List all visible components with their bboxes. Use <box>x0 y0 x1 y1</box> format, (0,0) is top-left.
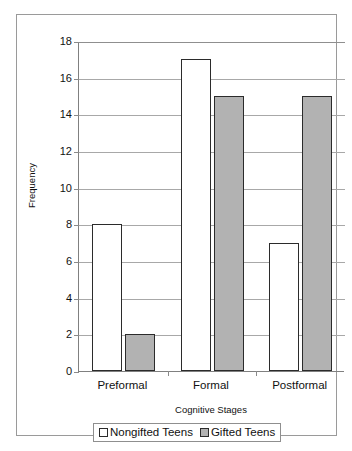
x-axis-category-label: Preformal <box>78 378 167 392</box>
y-axis-tick <box>74 225 79 226</box>
y-axis-title: Frequency <box>26 151 37 221</box>
x-axis-category-labels: PreformalFormalPostformal <box>78 378 344 394</box>
y-axis-tick-label: 14 <box>46 109 72 120</box>
x-axis-category-label: Postformal <box>255 378 344 392</box>
chart-frame: 024681012141618 Frequency PreformalForma… <box>16 14 337 436</box>
y-axis-tick <box>74 299 79 300</box>
bar <box>269 243 299 371</box>
legend-swatch-icon <box>200 428 209 437</box>
y-axis-tick-label: 4 <box>46 293 72 304</box>
x-axis-tick <box>256 371 257 376</box>
y-axis-tick <box>74 189 79 190</box>
legend-swatch-icon <box>99 428 108 437</box>
y-axis-tick <box>74 42 79 43</box>
bar <box>302 96 332 371</box>
bar <box>214 96 244 371</box>
y-axis-tick-label: 2 <box>46 329 72 340</box>
y-axis-tick-label: 8 <box>46 219 72 230</box>
y-axis-tick <box>74 372 79 373</box>
gridline <box>79 42 345 43</box>
y-axis-tick <box>74 79 79 80</box>
y-axis-tick-labels: 024681012141618 <box>44 42 72 372</box>
x-axis-tick <box>168 371 169 376</box>
x-axis-category-label: Formal <box>167 378 256 392</box>
legend-entry: Gifted Teens <box>200 426 275 439</box>
chart-legend: Nongifted TeensGifted Teens <box>93 423 281 442</box>
y-axis-tick <box>74 262 79 263</box>
y-axis-tick <box>74 335 79 336</box>
bar <box>92 224 122 371</box>
y-axis-tick-label: 6 <box>46 256 72 267</box>
y-axis-tick <box>74 152 79 153</box>
gridline <box>79 79 345 80</box>
y-axis-tick-label: 12 <box>46 146 72 157</box>
legend-label: Nongifted Teens <box>110 426 193 439</box>
y-axis-tick-label: 16 <box>46 73 72 84</box>
plot-area <box>78 42 344 372</box>
bar <box>125 334 155 371</box>
bar <box>181 59 211 371</box>
y-axis-tick-label: 0 <box>46 366 72 377</box>
x-axis-title: Cognitive Stages <box>78 404 344 416</box>
y-axis-tick-label: 18 <box>46 36 72 47</box>
y-axis-tick <box>74 115 79 116</box>
legend-entry: Nongifted Teens <box>99 426 193 439</box>
y-axis-tick-label: 10 <box>46 183 72 194</box>
legend-label: Gifted Teens <box>211 426 275 439</box>
